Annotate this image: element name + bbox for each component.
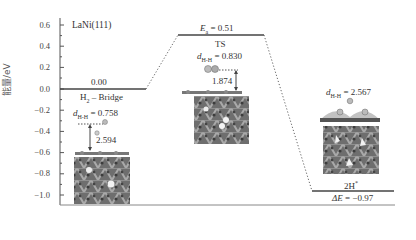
- y-ticks: [60, 25, 64, 195]
- y-tick-label: 0.6: [22, 21, 50, 30]
- ts-height-label: 1.874: [212, 77, 232, 86]
- ts-name-label: TS: [215, 40, 226, 49]
- y-tick-label: 0.0: [22, 85, 50, 94]
- connector-1: [146, 35, 178, 89]
- y-tick-label: 0.2: [22, 63, 50, 72]
- structure-image-h2-bridge: [74, 120, 130, 205]
- 2h-name-label: 2H*: [344, 180, 358, 191]
- 2h-dhh-label: dH-H = 2.567: [326, 88, 371, 99]
- 2h-reaction-energy-label: ΔE = −0.97: [332, 194, 373, 203]
- y-axis-label: 能量/eV: [0, 63, 13, 96]
- ts-barrier-label: Ea = 0.51: [200, 24, 234, 35]
- y-tick-label: −0.2: [22, 106, 50, 115]
- h2-bridge-name-label: H2 – Bridge: [80, 93, 123, 104]
- system-label: LaNi(111): [72, 21, 111, 31]
- h2-bridge-dhh-label: dH-H = 0.758: [73, 109, 118, 120]
- structure-image-2h: [320, 98, 380, 174]
- connector-2: [264, 35, 312, 191]
- y-tick-label: −1.0: [22, 191, 50, 200]
- y-tick-label: −0.8: [22, 169, 50, 178]
- h2-bridge-height-label: 2.594: [96, 136, 116, 145]
- ts-dhh-label: dH-H = 0.830: [197, 52, 242, 63]
- y-tick-label: 0.4: [22, 42, 50, 51]
- y-tick-label: −0.4: [22, 127, 50, 136]
- h2-bridge-energy-label: 0.00: [91, 78, 107, 87]
- y-tick-label: −0.6: [22, 148, 50, 157]
